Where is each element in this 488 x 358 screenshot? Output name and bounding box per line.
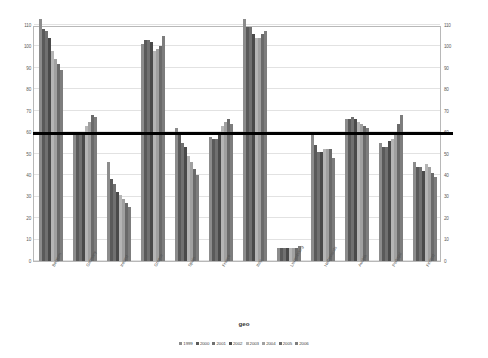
y-tick-label: 10 [444,238,462,243]
y-tick-label: 60 [13,131,31,136]
y-tick-label: 110 [13,24,31,29]
legend-label: 2006 [299,341,308,346]
bar-group [209,27,233,261]
legend-swatch [212,342,215,345]
y-tick-label: 100 [13,45,31,50]
y-tick-label: 50 [444,153,462,158]
bar-group [175,27,199,261]
bar-group [277,27,301,261]
legend-swatch [262,342,265,345]
y-tick-label: 10 [13,238,31,243]
y-tick-label: 0 [444,260,462,265]
y-tick-label: 70 [13,110,31,115]
bar-group [413,27,437,261]
y-tick-label: 20 [13,217,31,222]
legend-label: 2005 [283,341,292,346]
legend-item: 2004 [262,341,275,346]
y-tick-label: 90 [13,67,31,72]
legend-item: 2002 [229,341,242,346]
y-axis-right: 1101009080706050403020100 [444,26,464,262]
y-axis-left: 1101009080706050403020100 [11,26,31,262]
y-tick-label: 20 [444,217,462,222]
bar [434,177,437,261]
bars-layer [34,27,440,261]
bar [400,115,403,261]
legend-item: 2000 [196,341,209,346]
reference-line-60 [33,132,453,135]
y-tick-label: 30 [444,195,462,200]
legend-label: 2002 [233,341,242,346]
legend-label: 2003 [250,341,259,346]
y-tick-label: 50 [13,153,31,158]
legend-swatch [179,342,182,345]
legend-label: 2001 [216,341,225,346]
gridline [34,24,440,25]
legend-item: 2001 [212,341,225,346]
plot-area [33,26,441,262]
bar [94,117,97,261]
legend-swatch [196,342,199,345]
x-axis-title: geo [0,320,488,327]
bar [162,36,165,261]
chart-legend: 19992000200120022003200420052006 [0,341,488,346]
y-tick-label: 110 [444,24,462,29]
y-tick-label: 80 [13,88,31,93]
legend-swatch [229,342,232,345]
legend-swatch [246,342,249,345]
bar-group [345,27,369,261]
bar-group [379,27,403,261]
bar-group [243,27,267,261]
bar-group [141,27,165,261]
legend-label: 2000 [200,341,209,346]
legend-item: 2005 [279,341,292,346]
legend-item: 1999 [179,341,192,346]
legend-item: 2003 [246,341,259,346]
bar [60,70,63,261]
y-tick-label: 40 [13,174,31,179]
legend-swatch [279,342,282,345]
bar [366,128,369,261]
bar [230,124,233,261]
y-tick-label: 0 [13,260,31,265]
bar-group [73,27,97,261]
bar [196,175,199,261]
y-tick-label: 80 [444,88,462,93]
bar-group [39,27,63,261]
y-tick-label: 100 [444,45,462,50]
y-tick-label: 90 [444,67,462,72]
bar-group [311,27,335,261]
y-tick-label: 40 [444,174,462,179]
y-tick-label: 70 [444,110,462,115]
bar-group [107,27,131,261]
y-tick-label: 30 [13,195,31,200]
legend-item: 2006 [295,341,308,346]
bar [264,31,267,261]
chart-figure: 1101009080706050403020100 11010090807060… [0,0,488,358]
legend-label: 1999 [183,341,192,346]
legend-swatch [295,342,298,345]
legend-label: 2004 [266,341,275,346]
category-axis-labels: BelgiumGermanyIrelandGreeceSpainFranceIt… [33,263,441,318]
bar [128,207,131,261]
